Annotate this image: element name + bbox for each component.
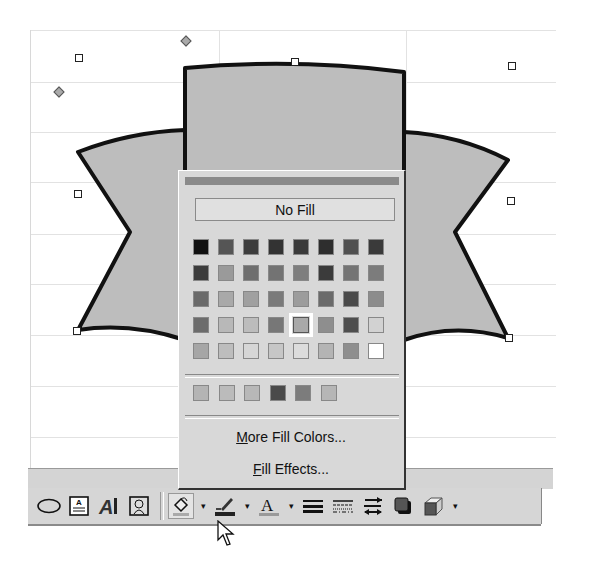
recent-color-swatch[interactable] bbox=[295, 385, 311, 401]
line-color-dropdown[interactable]: ▾ bbox=[242, 493, 252, 519]
color-swatch[interactable] bbox=[318, 265, 334, 281]
3d-icon bbox=[422, 495, 444, 517]
color-swatch[interactable] bbox=[268, 239, 284, 255]
color-swatch[interactable] bbox=[218, 265, 234, 281]
color-swatch[interactable] bbox=[368, 343, 384, 359]
recent-color-swatch[interactable] bbox=[321, 385, 337, 401]
line-style-icon bbox=[302, 498, 324, 514]
palette-row bbox=[193, 286, 393, 312]
color-swatch[interactable] bbox=[318, 343, 334, 359]
resize-handle[interactable] bbox=[75, 54, 83, 62]
drawing-toolbar: A A ▾ ▾ A ▾ ▾ bbox=[28, 488, 541, 526]
dash-style-button[interactable] bbox=[330, 493, 356, 519]
color-swatch[interactable] bbox=[193, 239, 209, 255]
color-swatch[interactable] bbox=[243, 239, 259, 255]
color-swatch[interactable] bbox=[218, 291, 234, 307]
line-color-button[interactable] bbox=[212, 493, 238, 519]
mouse-cursor-icon bbox=[217, 520, 237, 548]
color-swatch[interactable] bbox=[243, 291, 259, 307]
color-swatch[interactable] bbox=[243, 343, 259, 359]
fill-color-dropdown[interactable]: ▾ bbox=[198, 493, 208, 519]
paint-bucket-icon bbox=[170, 495, 192, 517]
color-swatch[interactable] bbox=[268, 343, 284, 359]
menu-divider bbox=[185, 374, 399, 378]
color-swatch[interactable] bbox=[193, 317, 209, 333]
palette-row bbox=[193, 234, 393, 260]
color-swatch[interactable] bbox=[293, 265, 309, 281]
oval-button[interactable] bbox=[36, 493, 62, 519]
color-swatch[interactable] bbox=[218, 239, 234, 255]
color-swatch[interactable] bbox=[343, 317, 359, 333]
fill-effects-item[interactable]: Fill Effects... bbox=[179, 461, 403, 477]
color-swatch[interactable] bbox=[368, 265, 384, 281]
menu-divider bbox=[185, 415, 399, 419]
resize-handle[interactable] bbox=[508, 62, 516, 70]
font-color-button[interactable]: A bbox=[256, 493, 282, 519]
palette-row bbox=[193, 260, 393, 286]
menu-drag-handle[interactable] bbox=[185, 177, 399, 185]
recent-color-swatch[interactable] bbox=[219, 385, 235, 401]
menu-item-label: ore Fill Colors... bbox=[248, 429, 346, 445]
dash-style-icon bbox=[332, 498, 354, 514]
color-swatch[interactable] bbox=[268, 291, 284, 307]
resize-handle[interactable] bbox=[74, 190, 82, 198]
color-swatch[interactable] bbox=[368, 239, 384, 255]
no-fill-button[interactable]: No Fill bbox=[195, 198, 395, 221]
arrow-style-button[interactable] bbox=[360, 493, 386, 519]
color-swatch[interactable] bbox=[318, 291, 334, 307]
palette-row bbox=[193, 312, 393, 338]
color-swatch[interactable] bbox=[193, 343, 209, 359]
resize-handle[interactable] bbox=[505, 334, 513, 342]
resize-handle[interactable] bbox=[73, 327, 81, 335]
color-palette bbox=[193, 234, 393, 364]
color-swatch[interactable] bbox=[293, 291, 309, 307]
chevron-down-icon: ▾ bbox=[245, 501, 250, 511]
palette-row bbox=[193, 338, 393, 364]
svg-text:A: A bbox=[76, 498, 82, 507]
text-box-icon: A bbox=[69, 496, 89, 516]
toolbar-separator bbox=[160, 492, 164, 520]
color-swatch[interactable] bbox=[268, 265, 284, 281]
font-color-dropdown[interactable]: ▾ bbox=[286, 493, 296, 519]
color-swatch[interactable] bbox=[318, 317, 334, 333]
color-swatch[interactable] bbox=[343, 291, 359, 307]
color-swatch[interactable] bbox=[343, 343, 359, 359]
mnemonic: F bbox=[253, 461, 262, 477]
resize-handle[interactable] bbox=[507, 197, 515, 205]
chevron-down-icon: ▾ bbox=[289, 501, 294, 511]
color-swatch[interactable] bbox=[268, 317, 284, 333]
color-swatch[interactable] bbox=[368, 291, 384, 307]
color-swatch[interactable] bbox=[243, 317, 259, 333]
svg-text:A: A bbox=[261, 496, 274, 515]
text-box-button[interactable]: A bbox=[66, 493, 92, 519]
clip-art-button[interactable] bbox=[126, 493, 152, 519]
3d-dropdown[interactable]: ▾ bbox=[450, 493, 460, 519]
font-color-icon: A bbox=[258, 495, 280, 517]
wordart-button[interactable]: A bbox=[96, 493, 122, 519]
recent-color-swatch[interactable] bbox=[244, 385, 260, 401]
more-fill-colors-item[interactable]: More Fill Colors... bbox=[179, 429, 403, 445]
3d-button[interactable] bbox=[420, 493, 446, 519]
fill-color-button[interactable] bbox=[168, 493, 194, 519]
color-swatch[interactable] bbox=[193, 291, 209, 307]
color-swatch[interactable] bbox=[343, 239, 359, 255]
color-swatch[interactable] bbox=[343, 265, 359, 281]
mnemonic: M bbox=[236, 429, 248, 445]
chevron-down-icon: ▾ bbox=[201, 501, 206, 511]
color-swatch[interactable] bbox=[293, 317, 309, 333]
recent-color-swatch[interactable] bbox=[193, 385, 209, 401]
resize-handle[interactable] bbox=[291, 58, 299, 66]
clip-art-icon bbox=[129, 496, 149, 516]
color-swatch[interactable] bbox=[293, 343, 309, 359]
color-swatch[interactable] bbox=[218, 317, 234, 333]
menu-item-label: ill Effects... bbox=[262, 461, 329, 477]
color-swatch[interactable] bbox=[243, 265, 259, 281]
line-style-button[interactable] bbox=[300, 493, 326, 519]
color-swatch[interactable] bbox=[368, 317, 384, 333]
color-swatch[interactable] bbox=[193, 265, 209, 281]
color-swatch[interactable] bbox=[293, 239, 309, 255]
color-swatch[interactable] bbox=[218, 343, 234, 359]
color-swatch[interactable] bbox=[318, 239, 334, 255]
recent-color-swatch[interactable] bbox=[270, 385, 286, 401]
shadow-button[interactable] bbox=[390, 493, 416, 519]
